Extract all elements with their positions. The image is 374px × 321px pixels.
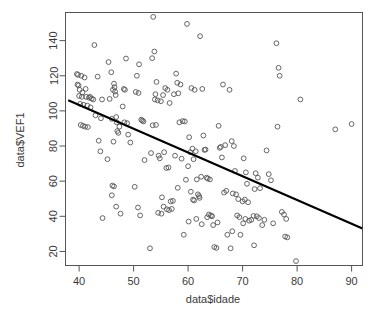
scatter-plot-figure: 405060708090 20406080100120140 data$idad… (0, 0, 374, 321)
x-tick-label: 50 (127, 275, 139, 287)
x-tick-label: 90 (345, 275, 357, 287)
y-tick-label: 140 (48, 31, 60, 49)
chart-canvas: 405060708090 20406080100120140 data$idad… (0, 0, 374, 321)
x-axis-title: data$idade (186, 293, 240, 305)
x-tick-label: 70 (236, 275, 248, 287)
x-tick-label: 60 (182, 275, 194, 287)
x-tick-label: 80 (291, 275, 303, 287)
y-tick-label: 40 (48, 210, 60, 222)
y-tick-label: 120 (48, 67, 60, 85)
y-tick-label: 80 (48, 140, 60, 152)
x-tick-label: 40 (73, 275, 85, 287)
y-tick-label: 100 (48, 102, 60, 120)
y-axis-title: data$VEF1 (14, 112, 26, 167)
y-tick-label: 60 (48, 175, 60, 187)
y-tick-label: 20 (48, 245, 60, 257)
